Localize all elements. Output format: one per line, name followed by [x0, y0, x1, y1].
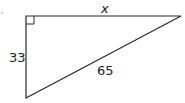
stray-dot [1, 12, 3, 14]
triangle-figure [0, 0, 185, 103]
right-angle-marker [26, 16, 34, 24]
right-triangle-diagram: x 33 65 [0, 0, 185, 103]
label-top-side-x: x [101, 2, 109, 15]
triangle-shape [26, 16, 181, 98]
label-hypotenuse: 65 [97, 64, 114, 77]
label-left-side: 33 [9, 51, 26, 64]
